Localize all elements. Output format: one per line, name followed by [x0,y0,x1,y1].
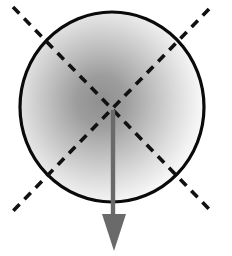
figure-container [0,0,232,256]
figure-canvas [0,0,232,256]
